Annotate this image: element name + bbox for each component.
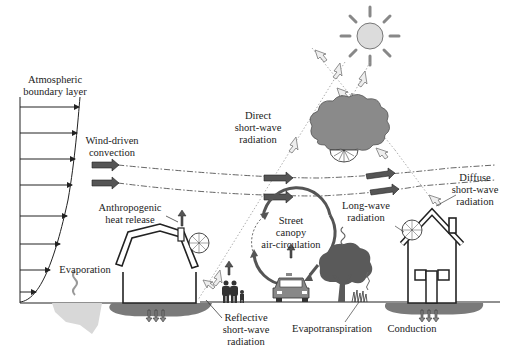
label-line: Reflective	[216, 312, 276, 324]
label-line: Wind-driven	[82, 135, 142, 147]
label-atmospheric-boundary-layer: Atmospheric boundary layer	[20, 74, 90, 98]
label-line: short-wave	[216, 324, 276, 336]
label-wind-driven-convection: Wind-driven convection	[82, 135, 142, 159]
barn-house	[109, 210, 212, 322]
urban-heat-diagram: Atmospheric boundary layer Wind-driven c…	[0, 0, 506, 358]
label-diffuse-shortwave: Diffuse short-wave radiation	[446, 172, 504, 208]
label-street-canopy: Street canopy air-circulation	[256, 215, 326, 251]
label-line: radiation	[336, 212, 396, 224]
evapotranspiration-leader	[345, 302, 359, 322]
label-line: canopy	[256, 227, 326, 239]
label-line: radiation	[228, 134, 288, 146]
label-line: air-circulation	[256, 239, 326, 251]
label-longwave: Long-wave radiation	[336, 200, 396, 224]
car-icon	[273, 273, 309, 302]
label-line: heat release	[95, 214, 165, 226]
label-line: boundary layer	[20, 86, 90, 98]
wind-arrows	[92, 159, 399, 203]
label-line: Street	[256, 215, 326, 227]
label-line: short-wave	[228, 122, 288, 134]
label-direct-shortwave: Direct short-wave radiation	[228, 110, 288, 146]
label-line: Diffuse	[446, 172, 504, 184]
people-icon	[222, 261, 244, 303]
label-line: convection	[82, 147, 142, 159]
label-line: Atmospheric	[20, 74, 90, 86]
label-line: radiation	[446, 196, 504, 208]
label-line: Direct	[228, 110, 288, 122]
label-line: short-wave	[446, 184, 504, 196]
sun-icon	[341, 7, 399, 65]
label-anthropogenic-heat: Anthropogenic heat release	[95, 202, 165, 226]
wind-paths	[118, 165, 495, 196]
radiation-arrows	[203, 50, 441, 289]
label-line: Anthropogenic	[95, 202, 165, 214]
label-line: radiation	[216, 336, 276, 348]
label-reflective-shortwave: Reflective short-wave radiation	[216, 312, 276, 348]
label-evaporation: Evaporation	[55, 264, 115, 276]
tree-icon	[319, 227, 372, 302]
radiation-paths	[198, 48, 432, 300]
diagram-canvas	[0, 0, 506, 358]
label-line: Long-wave	[336, 200, 396, 212]
label-evapotranspiration: Evapotranspiration	[290, 323, 374, 335]
house-icon	[385, 212, 483, 322]
label-conduction: Conduction	[382, 323, 442, 335]
anthropogenic-leader	[166, 216, 178, 222]
